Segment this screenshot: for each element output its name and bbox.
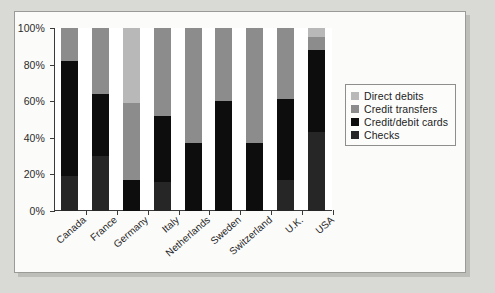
legend-swatch-icon [351, 131, 359, 139]
bar-u-k [277, 28, 294, 211]
bar-usa [308, 28, 325, 211]
legend-item: Credit/debit cards [351, 115, 448, 128]
legend-swatch-icon [351, 92, 359, 100]
bar-segment [123, 28, 140, 103]
legend-label: Credit/debit cards [364, 116, 448, 128]
bar-segment [154, 28, 171, 116]
y-axis-label: 100% [18, 22, 45, 34]
bar-sweden [215, 28, 232, 211]
bar-segment [246, 28, 263, 143]
bar-france [92, 28, 109, 211]
plot-area-wrapper: 0%20%40%60%80%100% [54, 28, 332, 211]
bar-segment [123, 180, 140, 211]
bar-italy [154, 28, 171, 211]
bar-segment [61, 61, 78, 176]
y-axis-label: 80% [24, 59, 45, 71]
x-axis-label: Canada [55, 214, 89, 246]
y-axis-tick [50, 211, 55, 212]
y-axis-label: 0% [30, 205, 45, 217]
bar-segment [308, 50, 325, 132]
bar-segment [92, 156, 109, 211]
bar-segment [277, 180, 294, 211]
bar-segment [185, 143, 202, 211]
bar-segment [246, 143, 263, 211]
bar-netherlands [185, 28, 202, 211]
bar-segment [308, 28, 325, 37]
y-axis-label: 20% [24, 168, 45, 180]
bar-segment [215, 28, 232, 101]
bar-segment [308, 37, 325, 50]
legend-item: Direct debits [351, 89, 448, 102]
x-axis-label: USA [313, 214, 336, 236]
bar-germany [123, 28, 140, 211]
bar-segment [123, 103, 140, 180]
chart-page: 0%20%40%60%80%100% CanadaFranceGermanyIt… [0, 0, 495, 293]
legend-item: Credit transfers [351, 102, 448, 115]
legend-label: Credit transfers [364, 103, 437, 115]
legend-label: Direct debits [364, 90, 424, 102]
y-axis-label: 60% [24, 95, 45, 107]
bar-switzerland [246, 28, 263, 211]
bar-segment [61, 176, 78, 211]
bar-segment [215, 101, 232, 211]
bar-segment [277, 99, 294, 180]
bar-segment [308, 132, 325, 211]
legend-label: Checks [364, 129, 400, 141]
bar-segment [154, 182, 171, 211]
chart-legend: Direct debitsCredit transfersCredit/debi… [345, 84, 456, 146]
bar-segment [185, 28, 202, 143]
legend-swatch-icon [351, 118, 359, 126]
bar-segment [61, 28, 78, 61]
bar-canada [61, 28, 78, 211]
bar-segment [92, 28, 109, 94]
bar-segment [92, 94, 109, 156]
bars-layer [54, 28, 332, 211]
legend-item: Checks [351, 128, 448, 141]
x-axis-label: Italy [160, 214, 181, 235]
y-axis-label: 40% [24, 132, 45, 144]
x-axis-label: U.K. [283, 214, 305, 235]
bar-segment [154, 116, 171, 182]
legend-swatch-icon [351, 105, 359, 113]
x-axis-labels: CanadaFranceGermanyItalyNetherlandsSwede… [54, 214, 354, 276]
bar-segment [277, 28, 294, 99]
